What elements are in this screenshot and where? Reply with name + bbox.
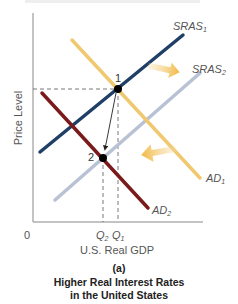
- ad2-label: AD2: [152, 204, 171, 217]
- panel-label: (a): [0, 262, 238, 274]
- y-axis-label: Price Level: [12, 88, 24, 148]
- sras2-curve: [55, 73, 200, 200]
- sras1-label: SRAS1: [173, 20, 207, 33]
- ad-shift-left-arrow-icon: [140, 140, 178, 164]
- cutoff-header-text: [25, 0, 200, 3]
- point-2-label: 2: [88, 151, 94, 163]
- q2-tick-label: Q2: [96, 229, 108, 242]
- ad2-curve: [42, 93, 148, 208]
- point-1-label: 1: [115, 72, 121, 84]
- caption-line-2: in the United States: [0, 289, 238, 301]
- equilibrium-point-1: [114, 85, 122, 93]
- equilibrium-point-2: [99, 154, 107, 162]
- ad-as-diagram: [0, 0, 238, 304]
- x-axis-label: U.S. Real GDP: [80, 244, 154, 256]
- ad1-label: AD1: [206, 172, 225, 185]
- sras2-label: SRAS2: [192, 63, 226, 76]
- origin-label: 0: [24, 229, 30, 241]
- caption-line-1: Higher Real Interest Rates: [0, 276, 238, 288]
- equilibrium-move-arrow-icon: [105, 93, 116, 149]
- q1-tick-label: Q1: [112, 229, 124, 242]
